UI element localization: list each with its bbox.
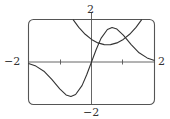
y-axis-min-label: −2	[83, 107, 99, 118]
x-axis-max-label: 2	[158, 56, 165, 67]
graph-canvas	[0, 0, 170, 119]
y-axis-max-label: 2	[87, 4, 94, 15]
parabola-curve	[73, 20, 142, 45]
x-axis-min-label: −2	[4, 56, 20, 67]
